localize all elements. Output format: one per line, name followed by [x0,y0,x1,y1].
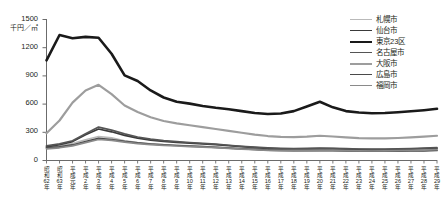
x-tick-label: 平成27年 [406,166,415,190]
x-tick-label-part: 年 [198,184,207,190]
legend-item[interactable]: 広島市 [350,69,442,80]
x-tick-label: 平成29年 [433,166,442,190]
x-tick-label: 平成12年 [211,166,220,190]
x-tick-label-part: 年 [133,184,142,190]
x-tick-label-part: 年 [328,184,337,190]
legend-item[interactable]: 大阪市 [350,58,442,69]
legend-label: 福岡市 [376,81,397,90]
x-tick-label: 平成8年 [159,166,168,190]
x-tick-label-part: 年 [433,184,442,190]
x-tick-label-part: 年 [81,184,90,190]
x-tick-label: 平成3年 [94,166,103,190]
x-tick-label: 平成26年 [393,166,402,190]
legend-label: 広島市 [376,70,397,79]
x-tick-label-part: 年 [211,184,220,190]
y-tick-label: 300 [0,127,38,135]
x-tick-label: 平成20年 [315,166,324,190]
y-tick-label: 900 [0,71,38,79]
x-tick-label-part: 年 [289,184,298,190]
legend-label: 名古屋市 [376,48,404,57]
x-tick-label: 平成23年 [354,166,363,190]
y-tick-label: 1500 [0,15,38,23]
x-tick-label-part: 年 [419,184,428,190]
x-tick-label: 平成28年 [419,166,428,190]
x-tick-label: 平成5年 [120,166,129,190]
chart-legend: 札幌市仙台市東京23区名古屋市大阪市広島市福岡市 [350,14,442,91]
x-tick-label: 平成24年 [367,166,376,190]
y-tick-label: 1200 [0,43,38,51]
x-tick-label: 平成9年 [172,166,181,190]
legend-item[interactable]: 名古屋市 [350,47,442,58]
legend-color-swatch [350,30,372,31]
x-tick-label-part: 年 [224,184,233,190]
y-axis-unit-label: 千円／㎡ [0,24,38,32]
x-tick-label-part: 年 [237,184,246,190]
x-tick-label-part: 年 [250,184,259,190]
x-tick-label: 平成15年 [250,166,259,190]
x-tick-label-part: 年 [302,184,311,190]
legend-color-swatch [350,19,372,20]
x-tick-label-part: 年 [107,184,116,190]
x-tick-label: 平成25年 [380,166,389,190]
x-tick-label-part: 年 [341,184,350,190]
x-tick-label-part: 年 [120,184,129,190]
x-tick-label-part: 年 [263,184,272,190]
x-tick-label-part: 年 [406,184,415,190]
y-axis-ticks [43,20,47,161]
x-tick-label-part: 年 [380,184,389,190]
x-tick-label-part: 年 [42,184,51,190]
x-tick-label: 平成18年 [289,166,298,190]
x-tick-label: 平成11年 [198,166,207,190]
x-tick-label-part: 年 [276,184,285,190]
legend-item[interactable]: 札幌市 [350,14,442,25]
legend-color-swatch [350,85,372,86]
legend-color-swatch [350,63,372,65]
x-tick-label: 平成2年 [81,166,90,190]
x-tick-label-part: 年 [172,184,181,190]
legend-color-swatch [350,52,372,53]
x-tick-label: 平成16年 [263,166,272,190]
x-tick-label-part: 年 [94,184,103,190]
x-tick-label-part: 年 [393,184,402,190]
x-tick-label: 平成7年 [146,166,155,190]
x-tick-label: 平成元年 [68,166,77,190]
y-tick-label: 0 [0,156,38,164]
x-tick-label-part: 年 [68,184,77,190]
legend-label: 仙台市 [376,26,397,35]
legend-color-swatch [350,74,372,75]
x-tick-label: 平成19年 [302,166,311,190]
legend-item[interactable]: 仙台市 [350,25,442,36]
legend-item[interactable]: 東京23区 [350,36,442,47]
x-tick-label: 昭和63年 [55,166,64,190]
x-tick-label: 平成22年 [341,166,350,190]
x-tick-label: 平成17年 [276,166,285,190]
x-tick-label-part: 年 [315,184,324,190]
x-tick-label-part: 年 [367,184,376,190]
x-tick-label: 昭和62年 [42,166,51,190]
x-tick-label-part: 年 [55,184,64,190]
land-price-line-chart: 030060090012001500千円／㎡ 昭和62年昭和63年平成元年平成2… [0,0,443,210]
x-tick-label-part: 年 [159,184,168,190]
x-tick-label-part: 年 [185,184,194,190]
legend-label: 東京23区 [376,37,405,46]
x-tick-label: 平成6年 [133,166,142,190]
legend-label: 大阪市 [376,59,397,68]
x-tick-label: 平成10年 [185,166,194,190]
y-tick-label: 600 [0,99,38,107]
legend-label: 札幌市 [376,15,397,24]
x-tick-label: 平成14年 [237,166,246,190]
legend-color-swatch [350,41,372,43]
x-tick-label-part: 年 [354,184,363,190]
x-tick-label-part: 年 [146,184,155,190]
x-tick-label: 平成4年 [107,166,116,190]
x-tick-label: 平成13年 [224,166,233,190]
x-tick-label: 平成21年 [328,166,337,190]
legend-item[interactable]: 福岡市 [350,80,442,91]
